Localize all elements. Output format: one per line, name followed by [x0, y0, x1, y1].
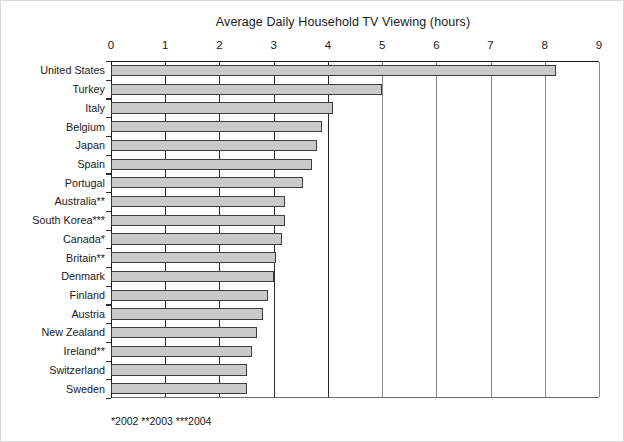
bar — [111, 233, 282, 244]
bar — [111, 364, 247, 375]
x-axis-tick-labels: 0123456789 — [1, 39, 624, 55]
bar-row — [111, 98, 599, 117]
x-tick-label: 0 — [108, 39, 114, 51]
y-axis-label-sweden: Sweden — [66, 383, 105, 395]
y-axis-tick — [106, 230, 111, 231]
y-axis-label-denmark: Denmark — [61, 270, 105, 282]
bar-row — [111, 192, 599, 211]
bar-row — [111, 80, 599, 99]
y-axis-label-italy: Italy — [85, 102, 105, 114]
bar-row — [111, 342, 599, 361]
y-axis-tick — [106, 117, 111, 118]
y-axis-tick — [106, 155, 111, 156]
gridline — [599, 62, 600, 397]
y-axis-tick — [106, 211, 111, 212]
y-axis-label-united-states: United States — [40, 64, 105, 76]
bar — [111, 159, 312, 170]
y-axis-label-switzerland: Switzerland — [49, 364, 105, 376]
bar — [111, 346, 252, 357]
y-axis-tick — [106, 342, 111, 343]
y-axis-tick — [106, 379, 111, 380]
bar-row — [111, 323, 599, 342]
y-axis-tick — [106, 361, 111, 362]
x-tick-label: 1 — [162, 39, 168, 51]
bar-row — [111, 61, 599, 80]
bar — [111, 177, 303, 188]
footnote: *2002 **2003 ***2004 — [111, 415, 211, 427]
y-axis-tick — [106, 248, 111, 249]
y-axis-label-spain: Spain — [77, 158, 105, 170]
y-axis-tick — [106, 323, 111, 324]
bar-row — [111, 211, 599, 230]
bars-layer — [111, 61, 599, 398]
bar-row — [111, 304, 599, 323]
y-axis-tick — [106, 80, 111, 81]
bar-row — [111, 173, 599, 192]
y-axis-label-new-zealand: New Zealand — [41, 326, 105, 338]
bar-row — [111, 117, 599, 136]
y-axis-label-south-korea: South Korea*** — [32, 214, 105, 226]
bar — [111, 140, 317, 151]
y-axis-tick — [106, 304, 111, 305]
bar-row — [111, 379, 599, 398]
y-axis-label-austria: Austria — [71, 308, 105, 320]
bar-row — [111, 286, 599, 305]
bar-row — [111, 248, 599, 267]
bar — [111, 290, 268, 301]
y-axis-tick — [106, 61, 111, 62]
y-axis-label-canada: Canada* — [63, 233, 105, 245]
y-axis-tick — [106, 267, 111, 268]
x-tick-label: 8 — [542, 39, 548, 51]
y-axis-tick — [106, 136, 111, 137]
x-tick-label: 9 — [596, 39, 602, 51]
bar — [111, 252, 276, 263]
y-axis-label-australia: Australia** — [55, 195, 105, 207]
chart-title: Average Daily Household TV Viewing (hour… — [1, 15, 624, 29]
bar-row — [111, 267, 599, 286]
x-tick-label: 2 — [216, 39, 222, 51]
y-axis-tick — [106, 398, 111, 399]
bar — [111, 84, 382, 95]
x-tick-label: 6 — [433, 39, 439, 51]
bar — [111, 271, 274, 282]
y-axis-label-portugal: Portugal — [65, 177, 105, 189]
y-axis-label-turkey: Turkey — [72, 83, 105, 95]
x-tick-label: 3 — [270, 39, 276, 51]
y-axis-label-britain: Britain** — [66, 252, 105, 264]
y-axis-label-finland: Finland — [70, 289, 105, 301]
bar — [111, 65, 556, 76]
bar — [111, 121, 322, 132]
bar-row — [111, 136, 599, 155]
y-axis-tick — [106, 173, 111, 174]
bar — [111, 215, 285, 226]
bar — [111, 196, 285, 207]
y-axis-tick — [106, 98, 111, 99]
chart-screenshot: Average Daily Household TV Viewing (hour… — [0, 0, 624, 442]
x-tick-label: 5 — [379, 39, 385, 51]
y-axis-tick — [106, 286, 111, 287]
y-axis-label-japan: Japan — [76, 139, 105, 151]
bar — [111, 102, 333, 113]
y-axis-category-labels: United StatesTurkeyItalyBelgiumJapanSpai… — [1, 61, 105, 398]
bar — [111, 327, 257, 338]
y-axis-label-ireland: Ireland** — [64, 345, 105, 357]
y-axis-tick — [106, 192, 111, 193]
bar-row — [111, 155, 599, 174]
bar — [111, 308, 263, 319]
y-axis-label-belgium: Belgium — [66, 121, 105, 133]
bar-row — [111, 361, 599, 380]
x-tick-label: 7 — [487, 39, 493, 51]
x-tick-label: 4 — [325, 39, 331, 51]
bar-row — [111, 230, 599, 249]
bar — [111, 383, 247, 394]
